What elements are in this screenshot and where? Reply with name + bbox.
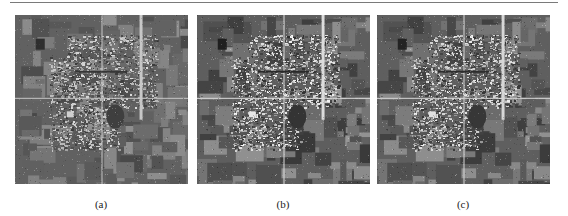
caption-a: (a) [81, 198, 121, 210]
caption-c: (c) [443, 198, 483, 210]
aerial-image-c [377, 15, 550, 184]
caption-b: (b) [263, 198, 303, 210]
aerial-image-b [197, 15, 370, 184]
aerial-image-a [15, 15, 188, 184]
top-rule [10, 2, 558, 3]
